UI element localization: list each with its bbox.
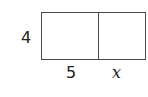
rectangle-part-left — [41, 12, 99, 60]
width-label-right: x — [112, 65, 121, 81]
rectangle-part-right — [98, 12, 146, 60]
width-label-left: 5 — [66, 65, 76, 81]
height-label: 4 — [21, 30, 31, 46]
